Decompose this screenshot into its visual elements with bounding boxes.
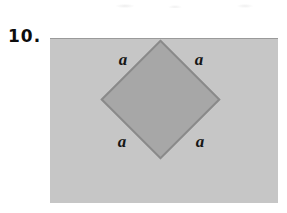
- side-label-bottom-left: a: [118, 133, 127, 150]
- problem-number: 10.: [8, 26, 41, 46]
- scan-artifact: [95, 0, 280, 8]
- side-label-bottom-right: a: [196, 133, 205, 150]
- figure-panel: a a a a: [50, 38, 278, 203]
- side-label-top-left: a: [119, 51, 128, 68]
- side-label-top-right: a: [195, 51, 204, 68]
- textbook-figure-page: 10. a a a a: [0, 0, 287, 213]
